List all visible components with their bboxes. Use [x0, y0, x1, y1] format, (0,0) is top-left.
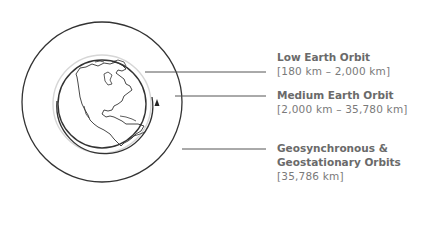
earth-icon: [58, 60, 146, 148]
meo-title: Medium Earth Orbit: [277, 88, 408, 102]
leo-range: [180 km – 2,000 km]: [277, 64, 390, 78]
leo-label: Low Earth Orbit [180 km – 2,000 km]: [277, 50, 390, 78]
meo-label: Medium Earth Orbit [2,000 km – 35,780 km…: [277, 88, 408, 116]
leo-title: Low Earth Orbit: [277, 50, 390, 64]
meo-range: [2,000 km – 35,780 km]: [277, 102, 408, 116]
geo-label: Geosynchronous & Geostationary Orbits [3…: [277, 141, 401, 183]
geo-title-line1: Geosynchronous &: [277, 141, 401, 155]
geo-title-line2: Geostationary Orbits: [277, 155, 401, 169]
orbit-direction-arrow-icon: [155, 99, 160, 106]
geo-range: [35,786 km]: [277, 169, 401, 183]
